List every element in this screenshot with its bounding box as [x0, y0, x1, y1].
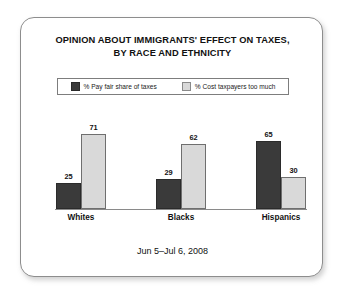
bar-hispanics-cost-taxpayers[interactable]: 30 — [281, 167, 306, 209]
x-axis-label-whites: Whites — [55, 213, 107, 222]
bar-value-whites-cost-taxpayers: 71 — [89, 124, 97, 132]
bar-hispanics-pay-fair-share[interactable]: 65 — [256, 131, 281, 209]
bar-group-hispanics: 65 30 — [255, 113, 307, 209]
x-axis-label-blacks: Blacks — [155, 213, 207, 222]
bar-rect-hispanics-cost-taxpayers — [281, 177, 306, 209]
x-axis-line — [55, 209, 307, 210]
chart-legend: % Pay fair share of taxes % Cost taxpaye… — [57, 78, 289, 95]
bar-value-whites-pay-fair-share: 25 — [64, 173, 72, 181]
chart-title-line-2: BY RACE AND ETHNICITY — [33, 47, 312, 60]
bar-rect-blacks-cost-taxpayers — [181, 144, 206, 209]
bar-group-blacks: 29 62 — [155, 113, 207, 209]
bar-blacks-pay-fair-share[interactable]: 29 — [156, 169, 181, 209]
bar-whites-cost-taxpayers[interactable]: 71 — [81, 124, 106, 209]
bar-blacks-cost-taxpayers[interactable]: 62 — [181, 134, 206, 209]
legend-label-pay-fair-share: % Pay fair share of taxes — [84, 83, 157, 90]
legend-item-pay-fair-share[interactable]: % Pay fair share of taxes — [71, 82, 157, 91]
legend-label-cost-taxpayers: % Cost taxpayers too much — [195, 83, 276, 90]
bar-value-hispanics-cost-taxpayers: 30 — [289, 167, 297, 175]
chart-title-line-1: OPINION ABOUT IMMIGRANTS' EFFECT ON TAXE… — [33, 34, 312, 47]
bar-groups: 25 71 29 62 — [55, 113, 307, 209]
bar-rect-blacks-pay-fair-share — [156, 179, 181, 209]
chart-footer-date: Jun 5–Jul 6, 2008 — [33, 246, 312, 256]
x-axis-label-hispanics: Hispanics — [255, 213, 307, 222]
legend-item-cost-taxpayers[interactable]: % Cost taxpayers too much — [182, 82, 276, 91]
screenshot-root: OPINION ABOUT IMMIGRANTS' EFFECT ON TAXE… — [0, 0, 343, 294]
bar-rect-whites-pay-fair-share — [56, 183, 81, 209]
plot-area: 25 71 29 62 — [55, 113, 307, 209]
bar-rect-whites-cost-taxpayers — [81, 134, 106, 209]
chart-card: OPINION ABOUT IMMIGRANTS' EFFECT ON TAXE… — [20, 17, 323, 277]
dark-swatch-icon — [71, 82, 80, 91]
x-axis-categories: Whites Blacks Hispanics — [55, 213, 307, 222]
bar-group-whites: 25 71 — [55, 113, 107, 209]
bar-rect-hispanics-pay-fair-share — [256, 141, 281, 209]
bar-value-blacks-cost-taxpayers: 62 — [189, 134, 197, 142]
bar-value-hispanics-pay-fair-share: 65 — [264, 131, 272, 139]
bar-value-blacks-pay-fair-share: 29 — [164, 169, 172, 177]
light-swatch-icon — [182, 82, 191, 91]
chart-title: OPINION ABOUT IMMIGRANTS' EFFECT ON TAXE… — [33, 34, 312, 60]
bar-whites-pay-fair-share[interactable]: 25 — [56, 173, 81, 209]
